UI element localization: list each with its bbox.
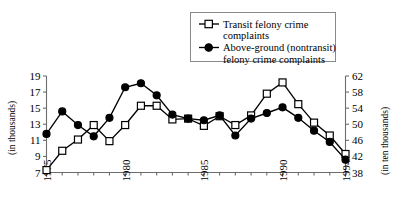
data-point-marker [106, 114, 113, 121]
data-point-marker [74, 122, 81, 129]
data-point-marker [153, 92, 160, 99]
open-square-icon [205, 20, 212, 27]
y-tick-label-right: 42 [352, 150, 363, 162]
data-point-marker [263, 109, 270, 116]
data-point-marker [122, 122, 129, 129]
y-tick-label-left: 15 [30, 102, 42, 114]
y-axis-right-labels: 38424650545862 [352, 70, 364, 179]
data-point-marker [137, 102, 144, 109]
data-point-marker [311, 119, 318, 126]
y-tick-label-right: 54 [352, 102, 364, 114]
legend-label-transit-line2: complaints [223, 30, 269, 41]
data-point-marker [43, 167, 50, 174]
data-point-marker [326, 138, 333, 145]
data-point-marker [232, 122, 239, 129]
data-point-marker [59, 108, 66, 115]
data-point-marker [74, 136, 81, 143]
y-tick-label-right: 46 [352, 134, 364, 146]
data-point-marker [295, 101, 302, 108]
data-point-marker [122, 84, 129, 91]
data-point-marker [279, 104, 286, 111]
x-tick-label: 1980 [120, 159, 132, 182]
data-point-marker [342, 156, 349, 163]
data-point-marker [311, 127, 318, 134]
data-point-marker [232, 132, 239, 139]
y-tick-label-right: 58 [352, 86, 364, 98]
data-point-marker [185, 115, 192, 122]
chart-legend: Transit felony crime complaints Above-gr… [191, 13, 337, 65]
data-point-marker [169, 111, 176, 118]
data-point-marker [59, 147, 66, 154]
y-axis-left-title: (in thousands) [7, 101, 18, 155]
data-point-marker [200, 117, 207, 124]
data-point-marker [43, 130, 50, 137]
data-point-marker [106, 138, 113, 145]
data-point-marker [137, 80, 144, 87]
y-tick-label-left: 13 [30, 118, 42, 130]
legend-label-aboveground-line2: felony crime complaints [223, 54, 325, 65]
data-point-marker [279, 79, 286, 86]
y-tick-label-left: 11 [30, 134, 41, 146]
x-tick-label: 1990 [277, 159, 289, 182]
y-axis-right-title: (in ten thousands) [380, 107, 391, 175]
y-tick-label-right: 50 [352, 118, 364, 130]
line-chart: Transit felony crime complaints Above-gr… [0, 0, 397, 217]
legend-label-aboveground-line1: Above-ground (nontransit) [223, 42, 336, 54]
filled-circle-icon [205, 44, 212, 51]
legend-label-transit-line1: Transit felony crime [223, 19, 309, 30]
data-point-marker [248, 115, 255, 122]
data-point-marker [216, 112, 223, 119]
data-point-marker [295, 114, 302, 121]
y-tick-label-left: 19 [30, 70, 42, 82]
y-tick-label-right: 38 [352, 167, 364, 179]
y-tick-label-right: 62 [352, 70, 363, 82]
data-point-marker [90, 122, 97, 129]
data-point-marker [90, 133, 97, 140]
y-tick-label-left: 17 [30, 86, 42, 98]
data-point-marker [263, 90, 270, 97]
x-tick-label: 1985 [198, 159, 210, 182]
data-point-marker [153, 102, 160, 109]
